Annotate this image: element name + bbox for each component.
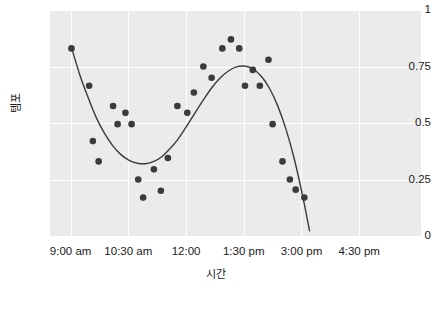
scatter-point bbox=[151, 166, 158, 173]
scatter-point bbox=[242, 82, 249, 89]
scatter-point bbox=[114, 121, 121, 128]
scatter-point bbox=[68, 45, 75, 52]
scatter-point bbox=[158, 188, 165, 195]
scatter-point bbox=[292, 186, 299, 193]
y-axis-tick-label: 0.75 bbox=[387, 61, 431, 73]
scatter-points bbox=[68, 36, 307, 201]
trend-line bbox=[71, 47, 309, 231]
scatter-point bbox=[165, 155, 172, 162]
scatter-point bbox=[128, 121, 135, 128]
scatter-point bbox=[265, 56, 272, 63]
scatter-point bbox=[250, 67, 257, 74]
plot-area bbox=[50, 10, 421, 236]
chart-container: 00.250.50.751 템포 9:00 am10:30 am12:001:3… bbox=[0, 0, 431, 314]
scatter-point bbox=[135, 176, 142, 183]
scatter-point bbox=[122, 110, 129, 117]
x-axis-tick-label: 12:00 bbox=[172, 246, 201, 258]
y-axis-tick-label: 0.25 bbox=[387, 174, 431, 186]
x-axis-tick-label: 9:00 am bbox=[50, 246, 92, 258]
scatter-point bbox=[95, 158, 102, 165]
scatter-point bbox=[301, 194, 308, 201]
x-axis-tick-label: 1:30 pm bbox=[223, 246, 265, 258]
scatter-point bbox=[269, 121, 276, 128]
y-axis-tick-label: 0.5 bbox=[387, 117, 431, 129]
scatter-point bbox=[236, 45, 243, 52]
y-axis-title: 템포 bbox=[7, 93, 23, 113]
scatter-point bbox=[184, 110, 191, 117]
gridline-horizontal bbox=[50, 236, 421, 237]
x-axis-title: 시간 bbox=[0, 265, 431, 281]
scatter-point bbox=[90, 138, 97, 145]
data-marks-layer bbox=[50, 10, 421, 236]
scatter-point bbox=[191, 89, 198, 96]
scatter-point bbox=[279, 158, 286, 165]
scatter-point bbox=[174, 103, 181, 110]
x-axis-tick-label: 4:30 pm bbox=[338, 246, 380, 258]
scatter-point bbox=[257, 82, 264, 89]
x-axis-tick-label: 3:00 pm bbox=[281, 246, 323, 258]
y-axis-tick-label: 1 bbox=[387, 4, 431, 16]
scatter-point bbox=[140, 194, 147, 201]
scatter-point bbox=[287, 176, 294, 183]
y-axis-tick-label: 0 bbox=[387, 230, 431, 242]
scatter-point bbox=[200, 63, 207, 70]
scatter-point bbox=[228, 36, 235, 43]
scatter-point bbox=[110, 103, 117, 110]
scatter-point bbox=[208, 75, 215, 82]
scatter-point bbox=[219, 45, 226, 52]
scatter-point bbox=[86, 82, 93, 89]
x-axis-tick-label: 10:30 am bbox=[104, 246, 152, 258]
